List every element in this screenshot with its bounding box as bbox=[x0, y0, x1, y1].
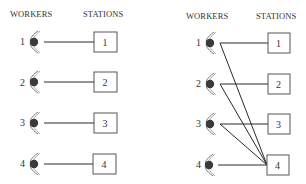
worker-eye-icon bbox=[30, 153, 40, 175]
left-panel: WORKERS STATIONS 1 1 2 2 3 3 4 4 bbox=[10, 9, 123, 175]
workers-header: WORKERS bbox=[10, 9, 52, 19]
worker-eye-icon bbox=[30, 112, 40, 134]
worker-number-1: 1 bbox=[20, 36, 25, 47]
worker-number-3: 3 bbox=[20, 117, 25, 128]
diagram-canvas: WORKERS STATIONS 1 1 2 2 3 3 4 4 WORKERS… bbox=[0, 0, 306, 184]
station-number-1: 1 bbox=[276, 38, 281, 49]
stations-header: STATIONS bbox=[256, 11, 296, 21]
station-number-1: 1 bbox=[103, 37, 108, 48]
stations-header: STATIONS bbox=[83, 9, 123, 19]
worker-number-4: 4 bbox=[196, 159, 201, 170]
connection-line-1-to-4 bbox=[220, 43, 267, 165]
right-panel: WORKERS STATIONS 1 1 2 2 3 3 4 4 bbox=[186, 11, 296, 176]
worker-eye-icon bbox=[30, 71, 40, 93]
worker-number-2: 2 bbox=[20, 77, 25, 88]
connection-line-3-to-4 bbox=[220, 124, 267, 165]
worker-number-1: 1 bbox=[196, 37, 201, 48]
station-number-4: 4 bbox=[275, 160, 280, 171]
worker-eye-icon bbox=[206, 73, 216, 95]
station-number-2: 2 bbox=[103, 77, 108, 88]
worker-number-3: 3 bbox=[196, 118, 201, 129]
worker-eye-icon bbox=[206, 113, 216, 135]
station-number-2: 2 bbox=[276, 79, 281, 90]
worker-eye-icon bbox=[205, 154, 215, 176]
station-number-3: 3 bbox=[276, 119, 281, 130]
workers-header: WORKERS bbox=[186, 11, 228, 21]
station-number-3: 3 bbox=[103, 118, 108, 129]
station-number-4: 4 bbox=[102, 159, 107, 170]
worker-number-2: 2 bbox=[196, 78, 201, 89]
worker-eye-icon bbox=[206, 32, 216, 54]
worker-number-4: 4 bbox=[20, 158, 25, 169]
worker-eye-icon bbox=[30, 31, 40, 53]
